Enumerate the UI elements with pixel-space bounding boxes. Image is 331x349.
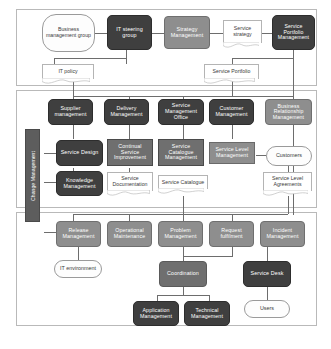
connector xyxy=(232,247,233,256)
node-label: Continual Service Improvement xyxy=(110,144,150,161)
node-service-documentation[interactable]: Service Documentation xyxy=(107,172,153,191)
document-wave-icon xyxy=(42,78,90,86)
connector xyxy=(73,214,288,215)
connector xyxy=(157,295,209,296)
node-label: Service Portfolio Management xyxy=(275,24,312,41)
node-label: Service strategy xyxy=(226,26,259,37)
node-label: Knowledge Management xyxy=(59,178,100,189)
node-users[interactable]: Users xyxy=(244,300,290,318)
node-service-management-office[interactable]: Service Management Office xyxy=(158,99,204,125)
node-it-environment[interactable]: IT environment xyxy=(54,260,102,278)
node-label: Request fulfilment xyxy=(212,228,251,239)
document-wave-icon xyxy=(204,78,255,86)
node-label: Release Management xyxy=(59,228,98,239)
connector xyxy=(267,247,268,261)
connector xyxy=(44,182,56,183)
connector xyxy=(44,153,56,154)
node-service-catalogue[interactable]: Service Catalogue xyxy=(158,175,208,189)
node-label: Service Catalogue Management xyxy=(161,144,201,161)
connector xyxy=(78,247,79,260)
node-label: Service Design xyxy=(59,150,100,156)
node-label: Customers xyxy=(276,153,302,159)
node-technical-management[interactable]: Technical Management xyxy=(184,301,230,326)
connector xyxy=(126,50,127,58)
node-label: Supplier management xyxy=(51,106,90,117)
node-label: Service Management Office xyxy=(161,103,201,120)
node-operational-maintenance[interactable]: Operational Maintenance xyxy=(107,221,152,247)
node-label: Change Management xyxy=(30,151,36,201)
node-business-relationship-management[interactable]: Business Relationship Management xyxy=(265,99,312,125)
connector xyxy=(129,214,130,221)
connector xyxy=(232,214,233,221)
connector xyxy=(262,33,272,34)
node-label: Users xyxy=(260,306,274,312)
node-continual-service-improvement[interactable]: Continual Service Improvement xyxy=(107,139,153,166)
node-business-management-group[interactable]: Business management group xyxy=(42,14,95,52)
connector xyxy=(267,287,268,300)
connector xyxy=(126,58,127,64)
document-wave-icon xyxy=(107,190,150,198)
node-application-management[interactable]: Application Management xyxy=(133,301,179,326)
connector xyxy=(183,214,184,221)
connector xyxy=(256,155,266,156)
node-service-catalogue-management[interactable]: Service Catalogue Management xyxy=(158,139,204,166)
connector xyxy=(129,125,130,139)
node-problem-management[interactable]: Problem Management xyxy=(158,221,203,247)
node-customers[interactable]: Customers xyxy=(266,146,312,166)
node-label: Service Catalogue xyxy=(162,180,204,186)
connector xyxy=(210,33,223,34)
node-label: IT policy xyxy=(58,69,77,75)
node-label: Strategy Management xyxy=(167,27,207,39)
connector xyxy=(288,196,289,214)
node-service-portfolio[interactable]: Service Portfolio xyxy=(204,64,259,79)
node-knowledge-management[interactable]: Knowledge Management xyxy=(56,171,103,196)
node-label: Service Desk xyxy=(246,271,288,277)
node-service-level-agreements[interactable]: Service Level Agreements xyxy=(263,172,312,191)
node-label: Coordination xyxy=(162,271,204,277)
node-release-management[interactable]: Release Management xyxy=(56,221,101,247)
node-delivery-management[interactable]: Delivery Management xyxy=(104,99,149,125)
node-request-fulfilment[interactable]: Request fulfilment xyxy=(209,221,254,247)
connector xyxy=(183,287,184,295)
connector xyxy=(73,125,74,139)
document-wave-icon xyxy=(223,42,259,50)
node-label: IT environment xyxy=(60,266,96,272)
node-label: Service Documentation xyxy=(110,176,150,187)
node-label: Operational Maintenance xyxy=(110,228,149,239)
connector xyxy=(54,58,127,59)
node-label: Service Level Management xyxy=(212,147,252,158)
node-label: Business Relationship Management xyxy=(268,104,309,121)
connector xyxy=(44,232,56,233)
node-incident-management[interactable]: Incident Management xyxy=(260,221,305,247)
connector xyxy=(95,33,107,34)
node-label: Business management group xyxy=(46,27,91,38)
connector xyxy=(152,33,164,34)
node-change-management[interactable]: Change Management xyxy=(25,129,40,222)
node-service-desk[interactable]: Service Desk xyxy=(243,261,291,287)
node-it-steering-group[interactable]: IT steering group xyxy=(107,15,152,50)
connector xyxy=(183,256,233,257)
connector xyxy=(232,58,294,59)
node-service-portfolio-management[interactable]: Service Portfolio Management xyxy=(272,15,315,50)
node-strategy-management[interactable]: Strategy Management xyxy=(164,16,210,49)
node-label: Problem Management xyxy=(161,228,200,239)
node-service-level-management[interactable]: Service Level Management xyxy=(209,142,255,164)
node-label: Incident Management xyxy=(263,228,302,239)
connector xyxy=(73,214,74,221)
node-it-policy[interactable]: IT policy xyxy=(42,64,94,79)
diagram-canvas: Business management group IT steering gr… xyxy=(0,0,331,349)
node-coordination[interactable]: Coordination xyxy=(159,261,207,287)
node-label: IT steering group xyxy=(110,27,149,39)
connector xyxy=(183,247,184,261)
connector xyxy=(232,125,233,139)
node-service-strategy[interactable]: Service strategy xyxy=(223,20,262,43)
node-label: Technical Management xyxy=(187,308,227,319)
node-supplier-management[interactable]: Supplier management xyxy=(48,99,93,125)
connector xyxy=(183,125,184,139)
connector xyxy=(183,196,184,214)
node-label: Service Level Agreements xyxy=(266,176,309,187)
document-wave-icon xyxy=(158,188,204,196)
node-label: Customer Management xyxy=(212,106,251,117)
node-service-design[interactable]: Service Design xyxy=(56,140,103,166)
node-customer-management[interactable]: Customer Management xyxy=(209,99,254,125)
